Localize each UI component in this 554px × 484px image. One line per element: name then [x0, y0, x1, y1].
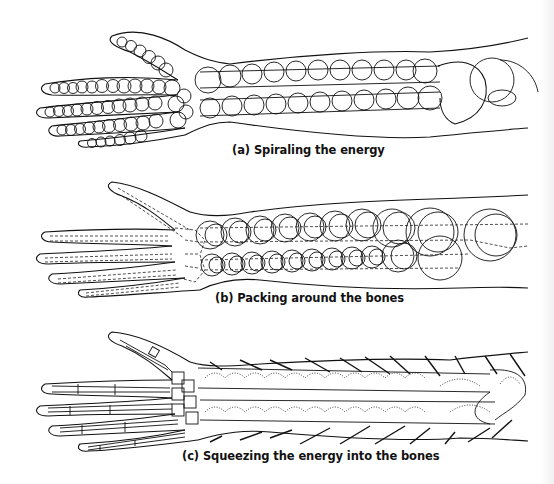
inward-arrows-top	[210, 354, 525, 376]
panel-a-spiraling: (a) Spiraling the energy	[0, 0, 554, 160]
finger-coils	[45, 37, 193, 148]
forearm-coils	[195, 58, 538, 124]
stacked-rings	[196, 208, 517, 280]
page-edge-shadow	[540, 0, 554, 484]
dotted-energy-patterns	[205, 373, 520, 412]
caption-c: (c) Squeezing the energy into the bones	[182, 449, 439, 463]
caption-b: (b) Packing around the bones	[215, 291, 404, 305]
dashed-hand-bones	[45, 188, 205, 296]
panel-c-squeezing: (c) Squeezing the energy into the bones	[0, 320, 554, 484]
panel-b-packing: (b) Packing around the bones	[0, 150, 554, 320]
arm-spiral-illustration	[0, 0, 554, 160]
